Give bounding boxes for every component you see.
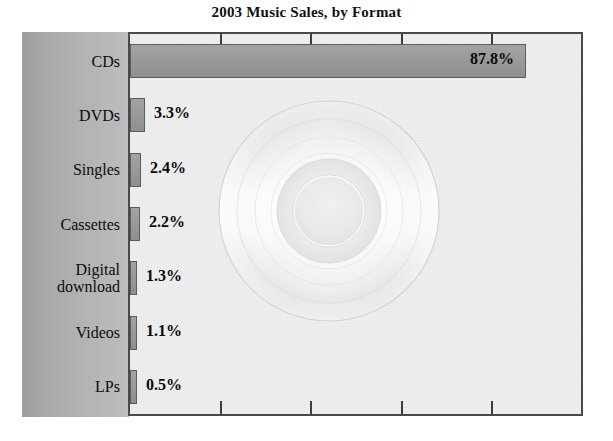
- category-label-lps: LPs: [95, 378, 120, 395]
- bar-value-label: 87.8%: [130, 50, 514, 68]
- category-label-videos: Videos: [76, 324, 120, 341]
- x-axis-tick: [491, 401, 493, 414]
- bar-value-label: 3.3%: [154, 104, 190, 122]
- x-axis-tick: [401, 401, 403, 414]
- bar-lps: [130, 370, 137, 404]
- category-label-line: LPs: [95, 378, 120, 395]
- category-label-line: CDs: [92, 53, 120, 70]
- category-label-line: Videos: [76, 324, 120, 341]
- chart-container: 2003 Music Sales, by Format CDsDVDsSingl…: [0, 0, 613, 441]
- cd-disc-watermark-icon: [218, 100, 440, 322]
- category-label-singles: Singles: [73, 161, 120, 178]
- bar-digital-download: [130, 261, 137, 295]
- bar-singles: [130, 153, 141, 187]
- category-label-cassettes: Cassettes: [60, 216, 120, 233]
- category-label-line: Cassettes: [60, 216, 120, 233]
- bar-dvds: [130, 98, 145, 132]
- category-label-line: DVDs: [79, 107, 120, 124]
- bar-value-label: 1.3%: [146, 267, 182, 285]
- bar-cassettes: [130, 207, 140, 241]
- category-label-cds: CDs: [92, 53, 120, 70]
- x-axis-tick: [220, 401, 222, 414]
- bar-value-label: 2.2%: [149, 213, 185, 231]
- category-label-line: Digital: [76, 261, 120, 278]
- bar-value-label: 0.5%: [146, 376, 182, 394]
- bar-value-label: 2.4%: [150, 159, 186, 177]
- category-label-line: Singles: [73, 161, 120, 178]
- category-label-dvds: DVDs: [79, 107, 120, 124]
- plot-area: 87.8%3.3%2.4%2.2%1.3%1.1%0.5%: [128, 32, 583, 416]
- category-label-digital-download: Digitaldownload: [57, 261, 120, 295]
- category-label-line: download: [57, 278, 120, 295]
- category-label-panel: CDsDVDsSinglesCassettesDigitaldownloadVi…: [22, 32, 129, 417]
- bar-videos: [130, 316, 137, 350]
- bar-value-label: 1.1%: [146, 322, 182, 340]
- x-axis-tick: [310, 401, 312, 414]
- chart-title: 2003 Music Sales, by Format: [0, 4, 613, 21]
- plot-texture: [130, 34, 581, 414]
